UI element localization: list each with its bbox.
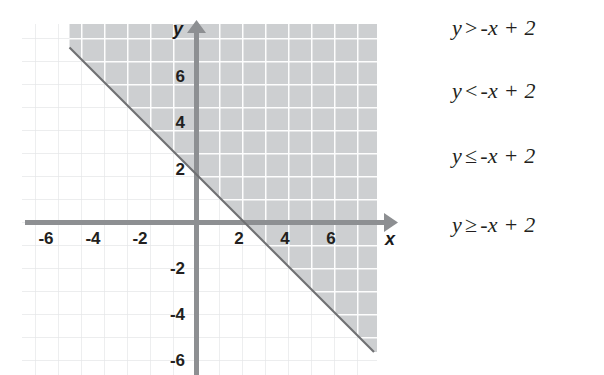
x-tick-label: 2 [234, 229, 243, 248]
option-c-lhs: y [452, 143, 462, 168]
coordinate-graph: -6 -4 -2 2 4 6 6 4 2 -2 -4 -6 x y [0, 0, 404, 375]
option-d-lhs: y [452, 212, 462, 237]
x-axis-label: x [384, 229, 396, 249]
option-a-operator: > [462, 15, 481, 40]
x-tick-label: -4 [85, 229, 101, 248]
answer-options-list: y>-x + 2 y<-x + 2 y≤-x + 2 y≥-x + 2 [404, 0, 604, 375]
option-c-rhs: -x + 2 [480, 143, 535, 168]
option-d-operator: ≥ [462, 212, 480, 237]
answer-option-c[interactable]: y≤-x + 2 [404, 139, 604, 173]
x-tick-label: 4 [280, 229, 290, 248]
graph-svg: -6 -4 -2 2 4 6 6 4 2 -2 -4 -6 x y [0, 0, 404, 375]
y-tick-label: -2 [170, 259, 185, 278]
option-b-operator: < [462, 78, 481, 103]
answer-option-d-text: y≥-x + 2 [452, 212, 535, 238]
answer-option-c-text: y≤-x + 2 [452, 143, 535, 169]
answer-option-d[interactable]: y≥-x + 2 [404, 208, 604, 242]
option-a-lhs: y [452, 15, 462, 40]
option-b-lhs: y [452, 78, 462, 103]
y-tick-label: -6 [170, 351, 185, 370]
answer-option-b-text: y<-x + 2 [452, 78, 536, 104]
x-tick-label: -6 [38, 229, 53, 248]
answer-option-b[interactable]: y<-x + 2 [404, 74, 604, 108]
y-axis-label: y [172, 19, 184, 39]
option-b-rhs: -x + 2 [481, 78, 536, 103]
y-tick-label: 2 [176, 160, 185, 179]
y-tick-label: 6 [176, 67, 185, 86]
option-c-operator: ≤ [462, 143, 480, 168]
option-a-rhs: -x + 2 [481, 15, 536, 40]
answer-option-a-text: y>-x + 2 [452, 15, 536, 41]
y-tick-label: 4 [176, 113, 186, 132]
answer-option-a[interactable]: y>-x + 2 [404, 11, 604, 45]
option-d-rhs: -x + 2 [480, 212, 535, 237]
x-tick-label: 6 [326, 229, 335, 248]
x-tick-label: -2 [132, 229, 147, 248]
page-root: -6 -4 -2 2 4 6 6 4 2 -2 -4 -6 x y y>-x +… [0, 0, 604, 375]
y-tick-label: -4 [170, 305, 186, 324]
